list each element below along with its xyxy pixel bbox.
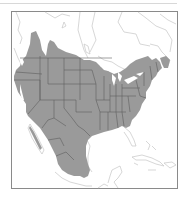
range-map — [0, 0, 189, 198]
